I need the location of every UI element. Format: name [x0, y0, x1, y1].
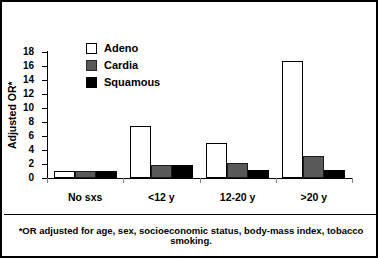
bar-adeno [206, 143, 227, 178]
x-category-label: >20 y [301, 192, 328, 203]
x-tick [200, 178, 201, 183]
bar-squamous [172, 165, 193, 178]
legend-label-cardia: Cardia [104, 60, 138, 71]
x-tick [123, 178, 124, 183]
bar-cardia [151, 165, 172, 178]
footnote-text: *OR adjusted for age, sex, socioeconomic… [2, 226, 378, 245]
chart-legend: Adeno Cardia Squamous [86, 42, 160, 93]
y-tick-label-18: 18 [23, 47, 34, 57]
legend-label-adeno: Adeno [104, 43, 138, 54]
x-category-label: No sxs [68, 192, 102, 203]
y-tick-label-0: 0 [28, 173, 34, 183]
y-tick-label-14: 14 [23, 75, 34, 85]
legend-item-adeno: Adeno [86, 42, 160, 55]
bar-cardia [303, 156, 324, 178]
bar-adeno [130, 126, 151, 179]
bar-adeno [54, 171, 75, 178]
y-tick-label-16: 16 [23, 61, 34, 71]
x-tick [352, 178, 353, 183]
legend-swatch-adeno-icon [86, 43, 97, 54]
legend-label-squamous: Squamous [104, 77, 160, 88]
x-tick [47, 178, 48, 183]
y-tick-label-10: 10 [23, 103, 34, 113]
y-tick-label-6: 6 [28, 131, 34, 141]
y-tick-label-12: 12 [23, 89, 34, 99]
y-tick-label-8: 8 [28, 117, 34, 127]
y-axis-title-text: Adjusted OR* [7, 81, 18, 149]
footnote-divider [4, 214, 378, 215]
legend-swatch-squamous-icon [86, 77, 97, 88]
legend-item-squamous: Squamous [86, 76, 160, 89]
legend-swatch-cardia-icon [86, 60, 97, 71]
figure-panel: Adjusted OR* 18 16 14 12 10 8 6 4 2 [0, 0, 378, 258]
x-category-label: <12 y [148, 192, 175, 203]
bar-cardia [75, 171, 96, 178]
bar-group [276, 52, 352, 178]
y-axis-title: Adjusted OR* [5, 52, 19, 178]
y-tick-label-2: 2 [28, 159, 34, 169]
bar-adeno [282, 61, 303, 178]
bar-cardia [227, 163, 248, 178]
bar-squamous [248, 170, 269, 178]
x-category-label: 12-20 y [220, 192, 256, 203]
bar-squamous [96, 171, 117, 178]
x-tick [276, 178, 277, 183]
y-tick-label-4: 4 [28, 145, 34, 155]
legend-item-cardia: Cardia [86, 59, 160, 72]
bar-squamous [324, 170, 345, 178]
bar-group [200, 52, 276, 178]
